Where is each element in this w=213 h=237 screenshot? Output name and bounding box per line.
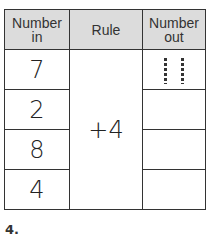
- header-number-out-line1: Number: [143, 16, 205, 30]
- header-number-in-line2: in: [5, 30, 69, 44]
- number-out-cell-blank[interactable]: [143, 130, 206, 170]
- dashed-stroke-one: [181, 58, 184, 84]
- header-number-out-line2: out: [143, 30, 205, 44]
- dashed-stroke-one: [164, 58, 167, 84]
- number-in-cell: 7: [5, 50, 70, 90]
- number-in-cell: 8: [5, 130, 70, 170]
- problem-number: 4.: [5, 222, 19, 237]
- number-out-cell-traced[interactable]: [143, 50, 206, 90]
- rule-cell: +4: [70, 50, 143, 210]
- header-row: Number in Rule Number out: [5, 10, 206, 50]
- table-row: 7 +4: [5, 50, 206, 90]
- number-out-cell-blank[interactable]: [143, 170, 206, 210]
- number-in-cell: 2: [5, 90, 70, 130]
- header-number-in: Number in: [5, 10, 70, 50]
- traced-answer-eleven: [157, 55, 191, 85]
- input-output-table-worksheet: Number in Rule Number out 7 +4 2: [4, 9, 206, 210]
- input-output-table: Number in Rule Number out 7 +4 2: [4, 9, 206, 210]
- number-out-cell-blank[interactable]: [143, 90, 206, 130]
- header-number-out: Number out: [143, 10, 206, 50]
- header-rule: Rule: [70, 10, 143, 50]
- header-number-in-line1: Number: [5, 16, 69, 30]
- number-in-cell: 4: [5, 170, 70, 210]
